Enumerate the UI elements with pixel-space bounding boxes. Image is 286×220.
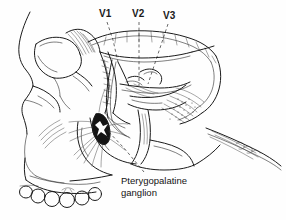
- label-v3: V3: [163, 11, 176, 22]
- label-v2: V2: [132, 9, 145, 20]
- label-v1: V1: [99, 9, 112, 20]
- anatomy-figure: V1 V2 V3 Pterygopalatine ganglion: [0, 0, 286, 220]
- label-pterygopalatine-ganglion: Pterygopalatine ganglion: [121, 175, 187, 198]
- label-pterygopalatine-ganglion-line2: ganglion: [121, 187, 187, 199]
- label-pterygopalatine-ganglion-line1: Pterygopalatine: [121, 175, 187, 187]
